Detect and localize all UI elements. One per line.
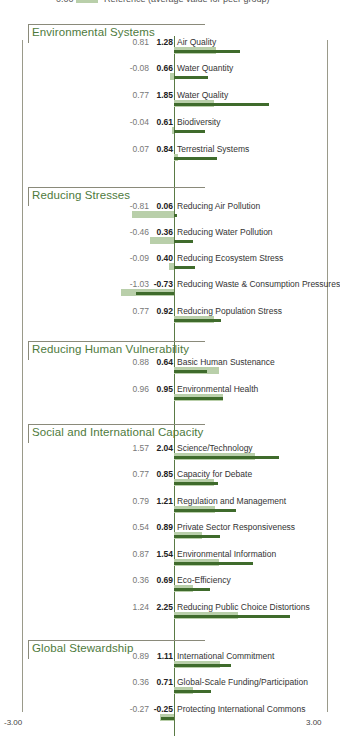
value-bar (174, 76, 208, 79)
indicator-label: Reducing Air Pollution (177, 201, 260, 211)
indicator-label: Capacity for Debate (177, 469, 252, 479)
indicator-value: 1.54 (156, 549, 173, 559)
indicator-row: 0.540.89Private Sector Responsiveness (0, 522, 330, 546)
reference-value: 0.07 (132, 144, 149, 154)
indicator-value: 0.40 (156, 253, 173, 263)
reference-value: -0.04 (130, 117, 149, 127)
indicator-label: Reducing Water Pollution (177, 227, 273, 237)
indicator-row: -0.080.66Water Quantity (0, 63, 330, 87)
reference-value: -0.09 (130, 253, 149, 263)
reference-value: 0.96 (132, 384, 149, 394)
legend-value: 0.00 (56, 0, 72, 4)
indicator-row: 0.360.69Eco-Efficiency (0, 575, 330, 599)
reference-value: 0.77 (132, 90, 149, 100)
reference-value: -0.27 (130, 704, 149, 714)
indicator-row: -0.27-0.25Protecting International Commo… (0, 704, 330, 728)
indicator-value: 0.92 (156, 306, 173, 316)
indicator-label: Biodiversity (177, 117, 220, 127)
reference-value: 0.54 (132, 522, 149, 532)
indicator-label: Basic Human Sustenance (177, 357, 275, 367)
reference-value: 0.36 (132, 575, 149, 585)
axis-min-label: -3.00 (4, 718, 22, 727)
indicator-label: Protecting International Commons (177, 704, 306, 714)
reference-value: 0.81 (132, 37, 149, 47)
indicator-value: 0.71 (156, 677, 173, 687)
indicator-value: 0.36 (156, 227, 173, 237)
value-bar (161, 717, 174, 720)
indicator-row: 1.572.04Science/Technology (0, 443, 330, 467)
legend-text: Reference (average value for peer group) (104, 0, 270, 4)
indicator-row: 0.891.11International Commitment (0, 651, 330, 675)
reference-value: 0.87 (132, 549, 149, 559)
indicator-value: 1.11 (157, 651, 173, 661)
indicator-value: 0.95 (156, 384, 173, 394)
value-bar (136, 292, 174, 295)
reference-value: -1.03 (130, 279, 149, 289)
indicator-row: -0.810.06Reducing Air Pollution (0, 201, 330, 225)
value-bar (174, 266, 195, 269)
indicator-label: Water Quality (177, 90, 228, 100)
value-bar (174, 370, 207, 373)
reference-value: 1.57 (132, 443, 149, 453)
indicator-value: 0.66 (156, 63, 173, 73)
reference-bar (150, 237, 174, 244)
indicator-value: 0.61 (156, 117, 173, 127)
reference-value: 0.89 (132, 651, 149, 661)
indicator-row: 0.791.21Regulation and Management (0, 496, 330, 520)
indicator-value: 0.06 (156, 201, 173, 211)
indicator-row: 0.070.84Terrestrial Systems (0, 144, 330, 168)
value-bar (174, 664, 231, 667)
section-title: Reducing Stresses (32, 189, 130, 201)
indicator-value: 0.69 (156, 575, 173, 585)
value-bar (174, 509, 236, 512)
indicator-value: 1.21 (156, 496, 173, 506)
indicator-label: Reducing Ecosystem Stress (177, 253, 283, 263)
indicator-label: Water Quantity (177, 63, 233, 73)
value-bar (174, 397, 223, 400)
axis-max-label: 3.00 (306, 718, 322, 727)
reference-value: -0.81 (130, 201, 149, 211)
indicator-value: 1.85 (156, 90, 173, 100)
indicator-label: Regulation and Management (177, 496, 286, 506)
indicator-label: Reducing Public Choice Distortions (177, 602, 310, 612)
value-bar (174, 615, 290, 618)
value-bar (174, 535, 220, 538)
reference-value: 0.79 (132, 496, 149, 506)
value-bar (174, 690, 211, 693)
indicator-value: 2.04 (156, 443, 173, 453)
value-bar (174, 319, 221, 322)
indicator-row: -0.460.36Reducing Water Pollution (0, 227, 330, 251)
section-title: Social and International Capacity (32, 426, 203, 438)
indicator-label: Reducing Waste & Consumption Pressures (177, 279, 340, 289)
indicator-row: -1.03-0.73Reducing Waste & Consumption P… (0, 279, 330, 303)
legend-reference-swatch (76, 0, 98, 3)
indicator-value: 0.84 (156, 144, 173, 154)
value-bar (174, 482, 218, 485)
indicator-value: 1.28 (156, 37, 173, 47)
section-title: Reducing Human Vulnerability (32, 343, 189, 355)
value-bar (174, 562, 253, 565)
indicator-label: Environmental Information (177, 549, 276, 559)
value-bar (174, 103, 269, 106)
reference-value: 0.77 (132, 306, 149, 316)
indicator-label: Global-Scale Funding/Participation (177, 677, 308, 687)
reference-bar (132, 211, 174, 218)
indicator-value: -0.73 (154, 279, 173, 289)
indicator-row: 0.880.64Basic Human Sustenance (0, 357, 330, 381)
indicator-row: 1.242.25Reducing Public Choice Distortio… (0, 602, 330, 626)
legend: 0.00Reference (average value for peer gr… (56, 0, 270, 4)
reference-value: -0.46 (130, 227, 149, 237)
reference-value: 0.88 (132, 357, 149, 367)
indicator-label: Terrestrial Systems (177, 144, 249, 154)
indicator-row: 0.360.71Global-Scale Funding/Participati… (0, 677, 330, 701)
reference-value: 1.24 (132, 602, 149, 612)
indicator-row: 0.871.54Environmental Information (0, 549, 330, 573)
indicator-row: 0.960.95Environmental Health (0, 384, 330, 408)
indicator-row: -0.090.40Reducing Ecosystem Stress (0, 253, 330, 277)
indicator-value: 2.25 (156, 602, 173, 612)
indicator-label: Environmental Health (177, 384, 258, 394)
indicator-row: -0.040.61Biodiversity (0, 117, 330, 141)
reference-value: 0.77 (132, 469, 149, 479)
indicator-label: International Commitment (177, 651, 274, 661)
value-bar (174, 50, 240, 53)
